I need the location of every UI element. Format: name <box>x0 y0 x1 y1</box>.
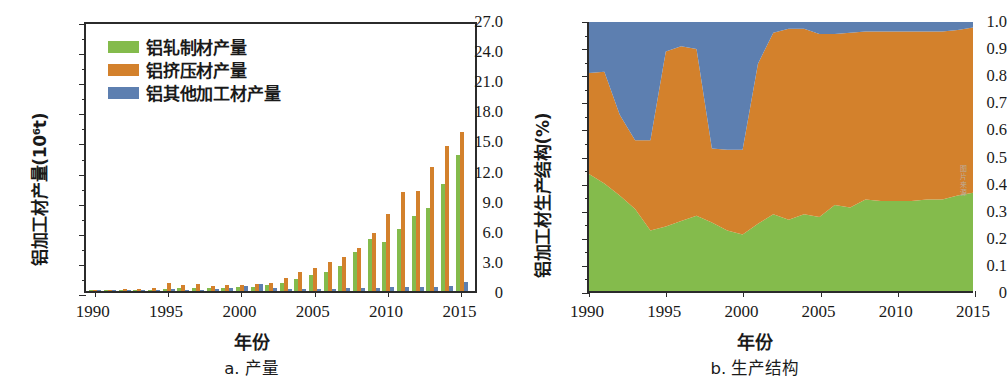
legend-item: 铝其他加工材产量 <box>108 82 280 103</box>
panel-a-bar <box>156 290 160 291</box>
panel-b-x-tickmark <box>821 291 822 297</box>
panel-b-x-tick-label: 2010 <box>879 303 913 320</box>
panel-a-bar <box>346 288 350 291</box>
panel-a-bar <box>127 290 131 291</box>
panel-a-production: 铝加工材产量(10⁶t) 铝轧制材产量铝挤压材产量铝其他加工材产量 03.06.… <box>0 0 503 390</box>
panel-a-y-tickmark <box>79 84 86 85</box>
panel-b-structure: 铝加工材生产结构(%) 00.10.20.30.40.50.60.70.80.9… <box>503 0 1007 390</box>
panel-a-bar <box>288 289 292 291</box>
watermark-text: 图片来源 <box>958 165 968 197</box>
panel-a-y-tick-label: 27.0 <box>428 14 503 31</box>
figure-root: 铝加工材产量(10⁶t) 铝轧制材产量铝挤压材产量铝其他加工材产量 03.06.… <box>0 0 1007 390</box>
panel-a-bar <box>171 289 175 291</box>
panel-a-y-tickmark <box>79 175 86 176</box>
panel-a-x-tick-label: 2005 <box>296 303 330 320</box>
panel-a-x-tick-label: 2015 <box>442 303 476 320</box>
panel-a-bar <box>390 287 394 291</box>
panel-a-y-tickmark <box>79 144 86 145</box>
panel-a-bar <box>372 233 376 291</box>
panel-a-bar <box>405 287 409 291</box>
panel-b-y-minor-tickmark <box>585 90 589 91</box>
panel-b-y-tick-label: 1.0 <box>932 14 1007 31</box>
panel-b-area-chart <box>589 22 973 291</box>
panel-b-y-minor-tickmark <box>585 171 589 172</box>
panel-b-y-tickmark <box>582 76 589 77</box>
panel-b-y-tick-label: 0.8 <box>932 68 1007 85</box>
panel-a-bar <box>273 288 277 291</box>
panel-a-caption: a. 产量 <box>0 355 503 379</box>
panel-b-plot-area <box>587 22 973 293</box>
panel-b-y-tick-label: 0.4 <box>932 176 1007 193</box>
panel-a-x-tick-label: 1995 <box>149 303 183 320</box>
panel-a-y-tickmark <box>79 54 86 55</box>
panel-a-y-tickmark <box>79 235 86 236</box>
panel-a-y-minor-tickmark <box>82 129 86 130</box>
panel-b-y-tickmark <box>582 103 589 104</box>
panel-a-x-tick-label: 2010 <box>369 303 403 320</box>
panel-a-y-tick-label: 21.0 <box>428 74 503 91</box>
panel-b-y-tickmark <box>582 239 589 240</box>
panel-a-bar <box>401 192 405 291</box>
panel-a-y-minor-tickmark <box>82 160 86 161</box>
panel-b-y-minor-tickmark <box>585 117 589 118</box>
panel-a-y-minor-tickmark <box>82 280 86 281</box>
panel-b-caption: b. 生产结构 <box>503 355 1007 379</box>
panel-b-y-tickmark <box>582 130 589 131</box>
panel-b-y-minor-tickmark <box>585 144 589 145</box>
legend-swatch-icon <box>108 41 139 53</box>
panel-a-y-minor-tickmark <box>82 69 86 70</box>
legend-item-label: 铝其他加工材产量 <box>146 80 280 105</box>
panel-a-y-tick-label: 9.0 <box>428 194 503 211</box>
panel-b-y-tickmark <box>582 293 589 294</box>
panel-a-plot-area: 铝轧制材产量铝挤压材产量铝其他加工材产量 <box>84 22 477 293</box>
panel-a-y-tickmark <box>79 24 86 25</box>
panel-a-bar <box>229 288 233 291</box>
panel-a-y-tick-label: 12.0 <box>428 164 503 181</box>
panel-a-y-minor-tickmark <box>82 250 86 251</box>
panel-a-x-tick-label: 2000 <box>222 303 256 320</box>
panel-a-y-axis-title: 铝加工材产量(10⁶t) <box>26 112 51 265</box>
panel-a-y-minor-tickmark <box>82 220 86 221</box>
panel-a-bar <box>141 290 145 291</box>
panel-b-y-tickmark <box>582 212 589 213</box>
panel-a-bar <box>302 289 306 291</box>
panel-b-x-tick-label: 2015 <box>956 303 990 320</box>
panel-b-x-tickmark <box>666 291 667 297</box>
panel-a-bar <box>112 290 116 291</box>
panel-a-y-tickmark <box>79 114 86 115</box>
legend-swatch-icon <box>108 87 139 99</box>
panel-b-x-axis-title: 年份 <box>503 328 1007 354</box>
panel-a-bar <box>420 287 424 291</box>
panel-b-y-tick-label: 0.1 <box>932 258 1007 275</box>
panel-a-y-tick-label: 24.0 <box>428 44 503 61</box>
panel-a-y-tick-label: 3.0 <box>428 255 503 272</box>
panel-b-y-minor-tickmark <box>585 36 589 37</box>
panel-b-y-axis-title: 铝加工材生产结构(%) <box>529 112 554 277</box>
panel-a-bar <box>313 268 317 291</box>
panel-a-x-tickmark <box>95 291 96 297</box>
legend-item: 铝轧制材产量 <box>108 36 280 57</box>
panel-a-x-tickmark <box>168 291 169 297</box>
panel-b-x-tick-label: 2005 <box>802 303 836 320</box>
panel-a-bar <box>200 290 204 291</box>
legend-swatch-icon <box>108 64 139 76</box>
panel-b-y-tickmark <box>582 49 589 50</box>
panel-a-y-minor-tickmark <box>82 190 86 191</box>
panel-a-bar <box>317 289 321 291</box>
panel-a-bar <box>376 288 380 291</box>
panel-b-y-minor-tickmark <box>585 279 589 280</box>
panel-a-y-tick-label: 15.0 <box>428 134 503 151</box>
panel-a-bar <box>215 289 219 292</box>
panel-a-bar <box>332 289 336 292</box>
panel-a-bar <box>259 284 263 291</box>
panel-a-y-minor-tickmark <box>82 39 86 40</box>
legend-item: 铝挤压材产量 <box>108 59 280 80</box>
panel-a-x-tickmark <box>315 291 316 297</box>
panel-b-y-minor-tickmark <box>585 63 589 64</box>
panel-b-y-tick-label: 0.7 <box>932 95 1007 112</box>
panel-b-y-tickmark <box>582 266 589 267</box>
panel-b-x-tick-label: 1990 <box>570 303 604 320</box>
panel-b-y-tick-label: 0.5 <box>932 149 1007 166</box>
panel-a-bar <box>97 290 101 291</box>
panel-a-bar <box>357 248 361 291</box>
